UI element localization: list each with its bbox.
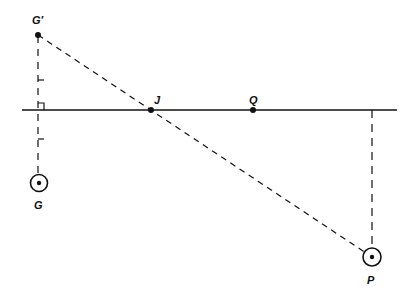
label-p: P (367, 274, 374, 286)
label-j: J (154, 94, 160, 106)
label-g: G (34, 199, 43, 211)
point-p (370, 255, 374, 259)
label-g-prime: G′ (32, 14, 43, 26)
reflection-diagram: G′ J Q G P (0, 0, 413, 294)
right-angle-marker (38, 103, 44, 110)
diagram-canvas (0, 0, 413, 294)
label-q: Q (249, 94, 258, 106)
point-j (148, 107, 154, 113)
point-g-prime (35, 32, 41, 38)
point-q (250, 107, 256, 113)
line-gprime-to-p (38, 35, 372, 257)
point-g (37, 181, 41, 185)
